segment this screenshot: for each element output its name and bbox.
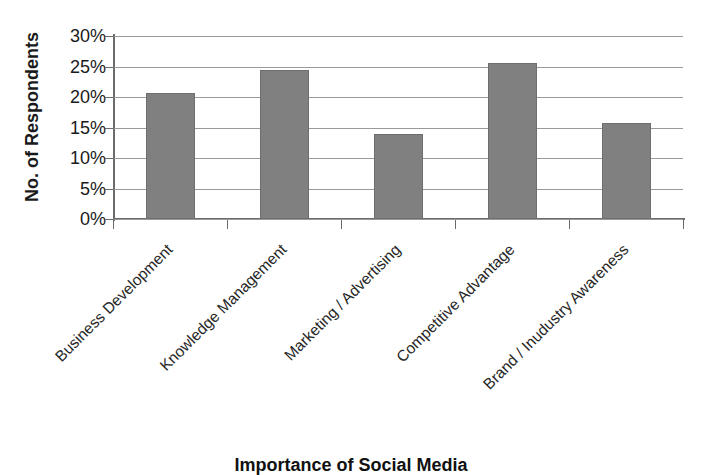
y-axis-tick-label: 25% [70, 56, 106, 77]
y-axis-tick-mark [105, 158, 114, 159]
y-axis-tick-label: 5% [80, 178, 106, 199]
bar-chart-figure: No. of Respondents 30%25%20%15%10%5%0% B… [0, 0, 702, 475]
gridline [113, 97, 683, 98]
bar [260, 70, 309, 219]
x-axis-tick-mark [569, 220, 570, 229]
bar [488, 63, 537, 219]
x-axis-tick-mark [683, 220, 684, 229]
y-axis-tick-labels: 30%25%20%15%10%5%0% [46, 36, 106, 219]
chart-title: Importance of Social Media [0, 455, 702, 475]
x-axis-tick-mark [227, 220, 228, 229]
bar [602, 123, 651, 219]
x-axis-tick-mark [113, 220, 114, 229]
gridline [113, 36, 683, 37]
y-axis-tick-label: 15% [70, 117, 106, 138]
bar [146, 93, 195, 219]
x-axis-tick-mark [455, 220, 456, 229]
y-axis-tick-label: 20% [70, 87, 106, 108]
y-axis-tick-mark [105, 189, 114, 190]
y-axis-tick-label: 0% [80, 209, 106, 230]
y-axis-tick-label: 10% [70, 148, 106, 169]
y-axis-tick-mark [105, 36, 114, 37]
x-axis-tick-label: Business Development [0, 241, 176, 423]
y-axis-tick-mark [105, 97, 114, 98]
y-axis-tick-label: 30% [70, 26, 106, 47]
gridline [113, 128, 683, 129]
y-axis-tick-mark [105, 128, 114, 129]
gridline [113, 219, 683, 220]
y-axis-tick-mark [105, 67, 114, 68]
bar [374, 134, 423, 219]
gridline [113, 67, 683, 68]
plot-area [113, 36, 683, 219]
x-axis-tick-mark [341, 220, 342, 229]
